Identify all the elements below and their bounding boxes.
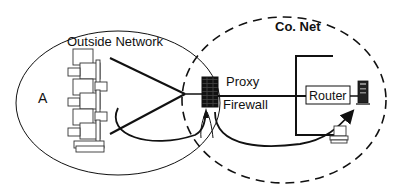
blocked-attack-path xyxy=(116,108,213,141)
host-a-label: A xyxy=(38,90,48,106)
firewall-label: Firewall xyxy=(223,97,268,112)
outside-network-label: Outside Network xyxy=(67,34,164,49)
firewall-icon xyxy=(202,77,218,107)
outside-host-stack xyxy=(68,49,107,152)
router-label: Router xyxy=(309,89,347,103)
server-icon xyxy=(356,81,370,105)
proxy-label: Proxy xyxy=(226,74,260,89)
company-network-label: Co. Net xyxy=(275,19,321,34)
